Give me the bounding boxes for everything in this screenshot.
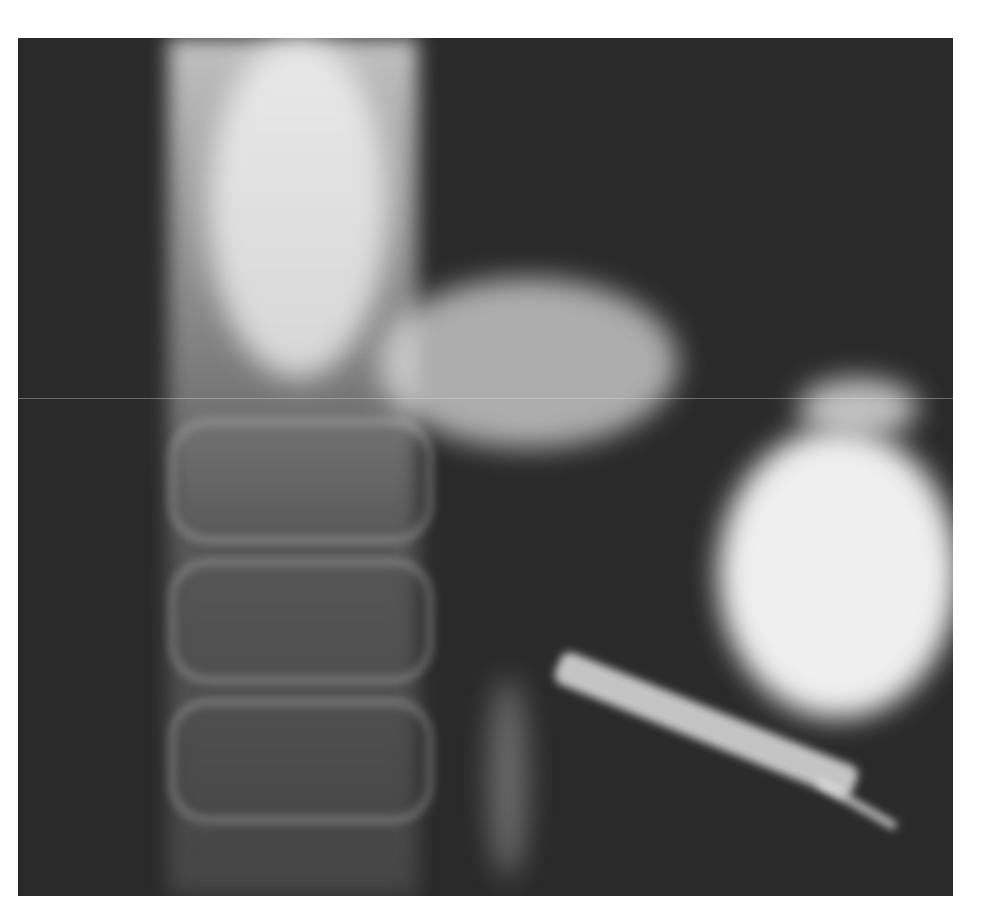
scan-line [18, 398, 953, 399]
right-contrast-mass [718, 428, 953, 718]
vertebra [168, 698, 434, 824]
vessel-tail [816, 779, 898, 831]
vertebra [168, 418, 434, 544]
upper-contrast [208, 38, 388, 378]
upper-right-branch [798, 378, 918, 438]
vertebra [168, 558, 434, 684]
radiograph-image [18, 38, 953, 896]
ureter-shadow [488, 678, 528, 878]
mid-contrast [378, 278, 678, 448]
